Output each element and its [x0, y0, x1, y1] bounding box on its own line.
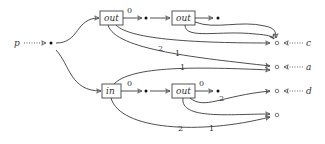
output-node-a — [275, 65, 279, 69]
box-out3-label: out — [176, 86, 191, 96]
output-label-c: c — [306, 38, 311, 48]
edge-out1-to-c — [116, 25, 270, 43]
node-after-out1 — [145, 17, 148, 20]
edge-label-in1-to-a: 1 — [180, 63, 185, 72]
edge-fork-to-in1 — [56, 50, 101, 91]
edge-label-out1-to-a: 1 — [175, 49, 180, 58]
output-node-c — [275, 41, 279, 45]
node-after-out3 — [217, 90, 220, 93]
edge-out2-to-c-b — [185, 25, 274, 39]
edge-label-in1-0: 0 — [127, 79, 132, 88]
process-diagram: p out 0 out 2 1 1 in 0 out 0 2 — [0, 0, 325, 144]
box-out2-label: out — [176, 13, 191, 23]
edge-in1-to-a — [113, 68, 270, 85]
output-label-d: d — [306, 86, 312, 96]
output-node-e — [275, 113, 279, 117]
box-out2: out — [172, 11, 195, 25]
edge-label-out3-to-e: 1 — [209, 124, 214, 133]
edge-in1-to-e — [111, 98, 270, 127]
edge-fork-to-out1 — [56, 18, 99, 43]
node-after-out2 — [217, 17, 220, 20]
edge-label-out3-0: 0 — [199, 79, 204, 88]
box-out3: out — [172, 84, 195, 98]
edge-label-out1-0: 0 — [127, 6, 132, 15]
box-out1: out — [100, 11, 123, 25]
output-label-a: a — [306, 62, 311, 72]
node-after-in1 — [145, 90, 148, 93]
edge-out2-to-c-a — [195, 22, 276, 38]
box-in1: in — [102, 84, 121, 98]
box-out1-label: out — [104, 13, 119, 23]
edge-label-out3-to-d: 2 — [219, 94, 224, 103]
fork-node — [50, 42, 53, 45]
box-in1-label: in — [106, 86, 115, 96]
edge-out3-to-e — [183, 98, 270, 115]
source-label-p: p — [14, 38, 20, 48]
edge-label-in1-to-e: 2 — [178, 124, 183, 133]
edge-out3-to-d — [190, 91, 270, 103]
output-node-d — [275, 89, 279, 93]
